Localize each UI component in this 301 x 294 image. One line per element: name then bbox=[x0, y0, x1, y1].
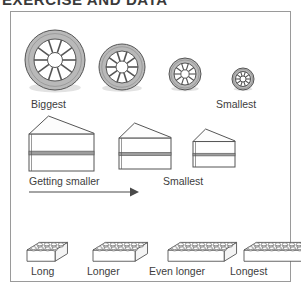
wheels-illustration bbox=[11, 12, 290, 107]
wheel-smallest bbox=[232, 68, 254, 91]
lego-brick-longest bbox=[244, 242, 301, 261]
wheel-second bbox=[99, 44, 145, 92]
cakes-label-smallest: Smallest bbox=[163, 175, 203, 187]
lego-brick-longer bbox=[93, 242, 148, 261]
bricks-label-longer: Longer bbox=[87, 265, 120, 277]
lego-bricks-illustration bbox=[11, 202, 290, 272]
page-heading-text: EXERCISE AND DATA bbox=[2, 0, 168, 8]
figure-container: Biggest Smallest Getting smaller Smalles… bbox=[10, 11, 291, 282]
wheel-third bbox=[169, 58, 201, 91]
lego-brick-long bbox=[27, 242, 67, 261]
getting-smaller-arrow bbox=[29, 188, 139, 197]
bricks-label-longest: Longest bbox=[230, 265, 267, 277]
wheels-label-smallest: Smallest bbox=[216, 98, 256, 110]
page-heading-clipped: EXERCISE AND DATA bbox=[0, 0, 301, 9]
cake-slice-smallest bbox=[193, 129, 235, 167]
lego-brick-even-longer bbox=[168, 242, 237, 261]
bricks-label-even-longer: Even longer bbox=[149, 265, 205, 277]
wheels-label-biggest: Biggest bbox=[31, 98, 66, 110]
cake-slice-middle bbox=[119, 123, 171, 169]
cakes-label-getting-smaller: Getting smaller bbox=[29, 175, 100, 187]
bricks-label-long: Long bbox=[31, 265, 54, 277]
cake-slice-biggest bbox=[29, 116, 94, 171]
wheel-biggest bbox=[25, 30, 85, 92]
